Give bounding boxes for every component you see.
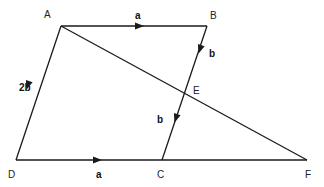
point-label-C: C bbox=[157, 169, 164, 180]
point-label-E: E bbox=[193, 85, 200, 96]
arrow-AB-icon bbox=[135, 23, 144, 30]
vector-label-BE: b bbox=[209, 48, 215, 59]
segment-AD bbox=[16, 26, 61, 160]
vector-label-EC: b bbox=[157, 114, 163, 125]
point-label-D: D bbox=[8, 169, 15, 180]
point-label-A: A bbox=[44, 9, 51, 20]
vector-diagram: A B E D C F a b 2b b a bbox=[0, 0, 324, 187]
point-label-F: F bbox=[305, 169, 311, 180]
arrow-DC-icon bbox=[93, 157, 102, 164]
vector-label-DC: a bbox=[96, 169, 102, 180]
point-label-B: B bbox=[210, 10, 217, 21]
vector-label-AB: a bbox=[135, 10, 141, 21]
segment-AF bbox=[61, 26, 307, 160]
arrow-EC-icon bbox=[171, 113, 181, 124]
arrow-BE-icon bbox=[195, 44, 205, 55]
vector-label-AD: 2b bbox=[19, 82, 31, 93]
